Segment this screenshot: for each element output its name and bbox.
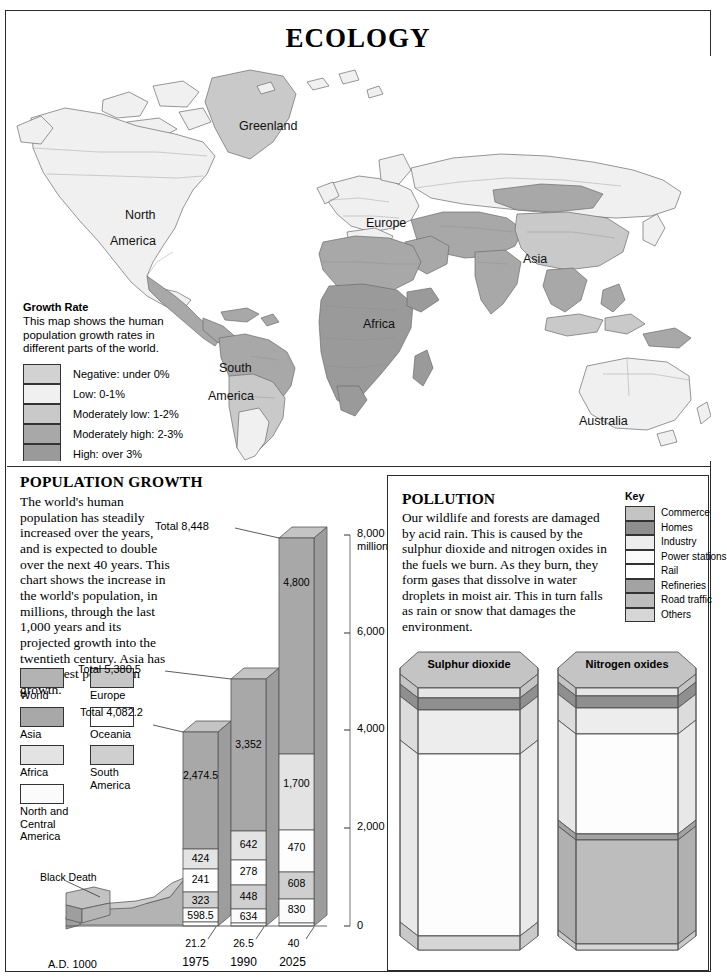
pollution-key-item-refineries: Refineries: [625, 579, 705, 594]
y-axis-label-2000: 2,000: [357, 820, 385, 832]
pollution-key-item-power-stations: Power stations: [625, 550, 705, 565]
map-legend: Growth Rate This map shows the human pop…: [23, 301, 198, 461]
pollution-key-item-rail: Rail: [625, 564, 705, 579]
y-axis-label-6000: 6,000: [357, 625, 385, 637]
pollution-key-item-commerce: Commerce: [625, 506, 705, 521]
pollution-cylinders-graphic: [388, 644, 708, 966]
pollution-heading: POLLUTION: [402, 490, 495, 508]
pollution-key: Key Commerce Homes Industry Power statio…: [625, 490, 705, 622]
pollution-key-item-others: Others: [625, 608, 705, 623]
swatch-power-stations: [625, 550, 655, 565]
map-label-africa: Africa: [363, 317, 395, 333]
map-legend-description: This map shows the human population grow…: [23, 315, 198, 356]
swatch-negative: [23, 364, 61, 384]
cylinder-title-sulphur-dioxide: Sulphur dioxide: [400, 658, 538, 670]
x-axis-label-2025: 2025: [270, 955, 315, 969]
chart-value-europe-1975: 241: [183, 873, 218, 885]
chart-value-asia-1990: 3,352: [231, 738, 266, 750]
swatch-road-traffic: [625, 593, 655, 608]
pollution-key-title: Key: [625, 490, 705, 502]
page-title: ECOLOGY: [6, 23, 710, 54]
map-legend-item-moderately-high: Moderately high: 2-3%: [23, 424, 198, 444]
pollution-key-label: Industry: [661, 536, 697, 547]
chart-value-north-central-america-1975: 598.5: [181, 909, 220, 921]
map-label-south: South: [219, 361, 252, 377]
x-axis-origin-label: A.D. 1000: [48, 958, 97, 970]
page-frame: ECOLOGY: [5, 10, 711, 972]
y-axis-label-0: 0: [357, 919, 363, 931]
pollution-section: POLLUTION Our wildlife and forests are d…: [387, 475, 709, 971]
swatch-industry: [625, 535, 655, 550]
chart-value-south-america-1990: 448: [231, 890, 266, 902]
chart-total-2025: Total 8,448: [155, 520, 209, 532]
swatch-commerce: [625, 506, 655, 521]
pollution-key-label: Homes: [661, 522, 693, 533]
map-label-australia: Australia: [579, 414, 628, 430]
map-label-greenland: Greenland: [239, 119, 297, 135]
swatch-low: [23, 384, 61, 404]
map-label-america-north: America: [110, 234, 156, 250]
x-axis-label-1990: 1990: [221, 955, 266, 969]
swatch-high: [23, 444, 61, 461]
pollution-key-label: Commerce: [661, 507, 710, 518]
pollution-body-text: Our wildlife and forests are damaged by …: [402, 510, 614, 634]
swatch-rail: [625, 564, 655, 579]
chart-value-africa-1975: 424: [183, 852, 218, 864]
pollution-key-item-road-traffic: Road traffic: [625, 593, 705, 608]
pollution-key-label: Rail: [661, 565, 678, 576]
pollution-key-item-homes: Homes: [625, 521, 705, 536]
map-legend-rows: Negative: under 0% Low: 0-1% Moderately …: [23, 364, 198, 461]
world-map: Greenland North America Europe Asia Afri…: [7, 56, 711, 461]
map-label-europe: Europe: [366, 216, 406, 232]
chart-value-oceania-1975: 21.2: [178, 937, 213, 949]
chart-value-oceania-1990: 26.5: [226, 937, 261, 949]
swatch-moderately-high: [23, 424, 61, 444]
swatch-moderately-low: [23, 404, 61, 424]
chart-value-south-america-2025: 608: [279, 877, 314, 889]
chart-value-asia-2025: 4,800: [279, 576, 314, 588]
map-legend-label: Negative: under 0%: [73, 368, 170, 380]
pollution-key-label: Refineries: [661, 580, 706, 591]
map-legend-label: Low: 0-1%: [73, 388, 125, 400]
chart-value-europe-2025: 470: [279, 841, 314, 853]
map-legend-label: Moderately high: 2-3%: [73, 428, 183, 440]
map-legend-item-negative: Negative: under 0%: [23, 364, 198, 384]
pollution-cylinders: Sulphur dioxide Nitrogen oxides: [388, 644, 708, 966]
swatch-others: [625, 608, 655, 623]
y-axis-label-8000: 8,000: [357, 527, 385, 539]
map-label-asia: Asia: [523, 252, 547, 268]
map-legend-label: High: over 3%: [73, 448, 142, 460]
map-legend-item-low: Low: 0-1%: [23, 384, 198, 404]
cylinder-title-nitrogen-oxides: Nitrogen oxides: [558, 658, 696, 670]
pollution-key-label: Others: [661, 609, 691, 620]
population-growth-section: POPULATION GROWTH The world's human popu…: [20, 473, 380, 978]
map-legend-label: Moderately low: 1-2%: [73, 408, 179, 420]
map-label-america-south: America: [208, 389, 254, 405]
chart-value-south-america-1975: 323: [183, 894, 218, 906]
chart-value-asia-1975: 2,474.5: [183, 769, 218, 781]
y-axis-label-4000: 4,000: [357, 722, 385, 734]
y-axis-unit: million: [357, 540, 388, 552]
chart-value-europe-1990: 278: [231, 865, 266, 877]
chart-value-oceania-2025: 40: [276, 937, 311, 949]
population-chart: Total 4,082.2 Total 5,380.5 Total 8,448 …: [20, 473, 380, 978]
map-label-north: North: [125, 208, 156, 224]
chart-total-1990: Total 5,380.5: [78, 663, 141, 675]
map-legend-item-moderately-low: Moderately low: 1-2%: [23, 404, 198, 424]
pollution-key-label: Road traffic: [661, 594, 712, 605]
section-divider: [7, 466, 711, 467]
map-legend-item-high: High: over 3%: [23, 444, 198, 461]
chart-value-africa-1990: 642: [231, 838, 266, 850]
swatch-refineries: [625, 579, 655, 594]
map-legend-title: Growth Rate: [23, 301, 198, 313]
pollution-key-label: Power stations: [661, 551, 727, 562]
chart-total-1975: Total 4,082.2: [80, 706, 150, 719]
chart-value-north-central-america-1990: 634: [231, 910, 266, 922]
chart-value-africa-2025: 1,700: [279, 777, 314, 789]
x-axis-label-1975: 1975: [173, 955, 218, 969]
swatch-homes: [625, 521, 655, 536]
black-death-annotation: Black Death: [40, 871, 97, 883]
pollution-key-item-industry: Industry: [625, 535, 705, 550]
chart-value-north-central-america-2025: 830: [279, 903, 314, 915]
